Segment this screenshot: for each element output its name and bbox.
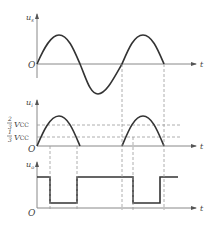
origin-label: O bbox=[28, 208, 36, 218]
threshold-one-third-label: 1 3 VCC bbox=[7, 128, 29, 143]
x-axis-label: t bbox=[200, 142, 204, 151]
capacitor-panel: ui t O 2 3 VCC 1 3 VCC bbox=[7, 98, 204, 154]
square-wave bbox=[37, 177, 178, 203]
origin-label: O bbox=[28, 144, 36, 154]
svg-text:VCC: VCC bbox=[14, 133, 29, 142]
waveform-diagram: us t O ui t O 2 3 VCC 1 3 VCC bbox=[0, 0, 211, 225]
origin-label: O bbox=[28, 60, 36, 70]
x-axis-label: t bbox=[200, 204, 204, 213]
svg-text:VCC: VCC bbox=[14, 120, 29, 129]
y-axis-label: uo bbox=[26, 160, 34, 170]
svg-text:1: 1 bbox=[8, 128, 12, 135]
output-panel: uo t O bbox=[26, 160, 204, 218]
x-axis-label: t bbox=[200, 60, 204, 69]
input-panel: us t O bbox=[26, 13, 204, 94]
svg-text:3: 3 bbox=[8, 136, 12, 143]
y-axis-label: us bbox=[26, 13, 34, 23]
svg-text:2: 2 bbox=[7, 115, 12, 122]
half-sine-pulse-2 bbox=[122, 116, 164, 146]
half-sine-pulse-1 bbox=[37, 116, 80, 146]
y-axis-label: ui bbox=[26, 98, 33, 108]
